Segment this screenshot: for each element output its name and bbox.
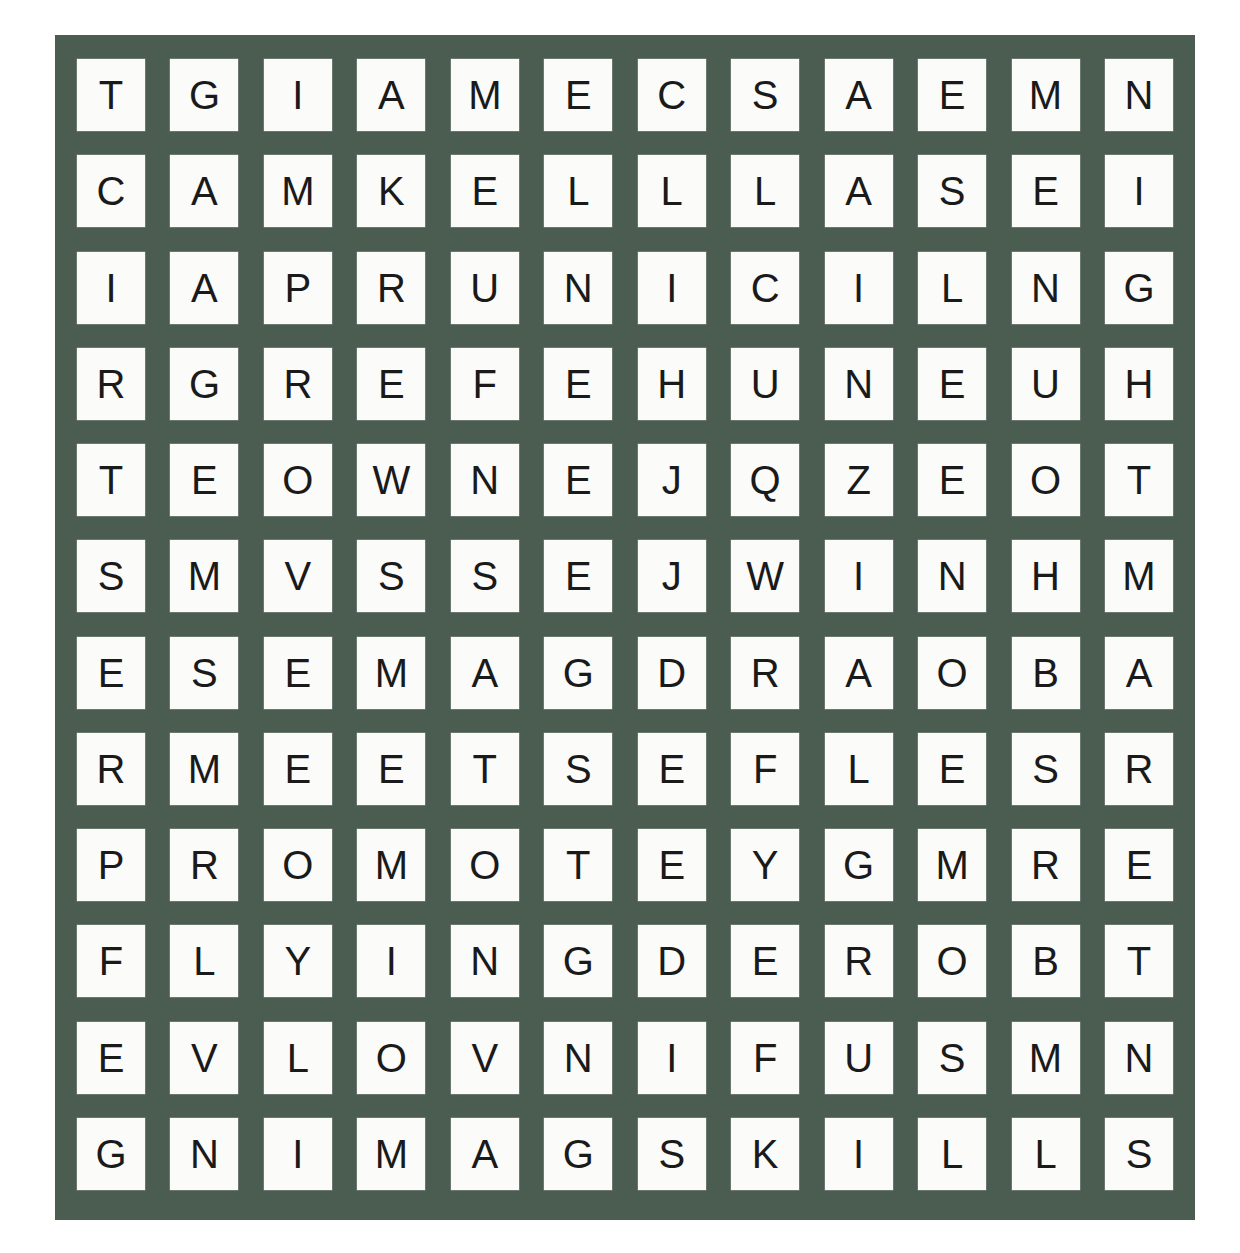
grid-cell-r6-c12[interactable]: M bbox=[1105, 540, 1173, 612]
grid-cell-r11-c6[interactable]: N bbox=[544, 1022, 612, 1094]
grid-cell-r3-c9[interactable]: I bbox=[825, 252, 893, 324]
grid-cell-r5-c6[interactable]: E bbox=[544, 444, 612, 516]
grid-cell-r2-c6[interactable]: L bbox=[544, 155, 612, 227]
grid-cell-r12-c10[interactable]: L bbox=[918, 1118, 986, 1190]
grid-cell-r9-c6[interactable]: T bbox=[544, 829, 612, 901]
grid-cell-r4-c3[interactable]: R bbox=[264, 348, 332, 420]
grid-cell-r6-c11[interactable]: H bbox=[1012, 540, 1080, 612]
grid-cell-r6-c5[interactable]: S bbox=[451, 540, 519, 612]
grid-cell-r3-c5[interactable]: U bbox=[451, 252, 519, 324]
grid-cell-r2-c10[interactable]: S bbox=[918, 155, 986, 227]
grid-cell-r3-c10[interactable]: L bbox=[918, 252, 986, 324]
grid-cell-r5-c8[interactable]: Q bbox=[731, 444, 799, 516]
grid-cell-r8-c1[interactable]: R bbox=[77, 733, 145, 805]
grid-cell-r6-c3[interactable]: V bbox=[264, 540, 332, 612]
grid-cell-r11-c9[interactable]: U bbox=[825, 1022, 893, 1094]
grid-cell-r10-c11[interactable]: B bbox=[1012, 925, 1080, 997]
grid-cell-r11-c10[interactable]: S bbox=[918, 1022, 986, 1094]
grid-cell-r4-c4[interactable]: E bbox=[357, 348, 425, 420]
grid-cell-r11-c3[interactable]: L bbox=[264, 1022, 332, 1094]
grid-cell-r3-c1[interactable]: I bbox=[77, 252, 145, 324]
grid-cell-r5-c7[interactable]: J bbox=[638, 444, 706, 516]
grid-cell-r2-c3[interactable]: M bbox=[264, 155, 332, 227]
grid-cell-r7-c6[interactable]: G bbox=[544, 637, 612, 709]
grid-cell-r9-c3[interactable]: O bbox=[264, 829, 332, 901]
grid-cell-r11-c1[interactable]: E bbox=[77, 1022, 145, 1094]
grid-cell-r7-c2[interactable]: S bbox=[170, 637, 238, 709]
grid-cell-r12-c7[interactable]: S bbox=[638, 1118, 706, 1190]
grid-cell-r4-c6[interactable]: E bbox=[544, 348, 612, 420]
grid-cell-r2-c2[interactable]: A bbox=[170, 155, 238, 227]
grid-cell-r12-c12[interactable]: S bbox=[1105, 1118, 1173, 1190]
grid-cell-r9-c8[interactable]: Y bbox=[731, 829, 799, 901]
grid-cell-r5-c10[interactable]: E bbox=[918, 444, 986, 516]
grid-cell-r4-c12[interactable]: H bbox=[1105, 348, 1173, 420]
grid-cell-r10-c2[interactable]: L bbox=[170, 925, 238, 997]
grid-cell-r3-c7[interactable]: I bbox=[638, 252, 706, 324]
grid-cell-r9-c7[interactable]: E bbox=[638, 829, 706, 901]
grid-cell-r1-c12[interactable]: N bbox=[1105, 59, 1173, 131]
grid-cell-r6-c9[interactable]: I bbox=[825, 540, 893, 612]
grid-cell-r1-c5[interactable]: M bbox=[451, 59, 519, 131]
grid-cell-r8-c9[interactable]: L bbox=[825, 733, 893, 805]
grid-cell-r2-c11[interactable]: E bbox=[1012, 155, 1080, 227]
grid-cell-r6-c10[interactable]: N bbox=[918, 540, 986, 612]
word-search-grid[interactable]: TGIAMECSAEMNCAMKELLLASEIIAPRUNICILNGRGRE… bbox=[55, 35, 1195, 1220]
grid-cell-r6-c7[interactable]: J bbox=[638, 540, 706, 612]
grid-cell-r9-c1[interactable]: P bbox=[77, 829, 145, 901]
grid-cell-r4-c8[interactable]: U bbox=[731, 348, 799, 420]
grid-cell-r6-c1[interactable]: S bbox=[77, 540, 145, 612]
grid-cell-r8-c2[interactable]: M bbox=[170, 733, 238, 805]
grid-cell-r4-c5[interactable]: F bbox=[451, 348, 519, 420]
grid-cell-r1-c6[interactable]: E bbox=[544, 59, 612, 131]
grid-cell-r12-c5[interactable]: A bbox=[451, 1118, 519, 1190]
grid-cell-r11-c5[interactable]: V bbox=[451, 1022, 519, 1094]
grid-cell-r1-c9[interactable]: A bbox=[825, 59, 893, 131]
grid-cell-r11-c4[interactable]: O bbox=[357, 1022, 425, 1094]
grid-cell-r9-c9[interactable]: G bbox=[825, 829, 893, 901]
grid-cell-r7-c5[interactable]: A bbox=[451, 637, 519, 709]
grid-cell-r8-c3[interactable]: E bbox=[264, 733, 332, 805]
grid-cell-r6-c2[interactable]: M bbox=[170, 540, 238, 612]
grid-cell-r1-c4[interactable]: A bbox=[357, 59, 425, 131]
grid-cell-r10-c4[interactable]: I bbox=[357, 925, 425, 997]
grid-cell-r12-c3[interactable]: I bbox=[264, 1118, 332, 1190]
grid-cell-r12-c1[interactable]: G bbox=[77, 1118, 145, 1190]
grid-cell-r10-c6[interactable]: G bbox=[544, 925, 612, 997]
grid-cell-r10-c10[interactable]: O bbox=[918, 925, 986, 997]
grid-cell-r4-c11[interactable]: U bbox=[1012, 348, 1080, 420]
grid-cell-r8-c11[interactable]: S bbox=[1012, 733, 1080, 805]
grid-cell-r10-c12[interactable]: T bbox=[1105, 925, 1173, 997]
grid-cell-r8-c5[interactable]: T bbox=[451, 733, 519, 805]
grid-cell-r2-c8[interactable]: L bbox=[731, 155, 799, 227]
grid-cell-r7-c3[interactable]: E bbox=[264, 637, 332, 709]
grid-cell-r5-c4[interactable]: W bbox=[357, 444, 425, 516]
grid-cell-r1-c3[interactable]: I bbox=[264, 59, 332, 131]
grid-cell-r8-c8[interactable]: F bbox=[731, 733, 799, 805]
grid-cell-r5-c3[interactable]: O bbox=[264, 444, 332, 516]
grid-cell-r5-c5[interactable]: N bbox=[451, 444, 519, 516]
grid-cell-r9-c12[interactable]: E bbox=[1105, 829, 1173, 901]
grid-cell-r2-c9[interactable]: A bbox=[825, 155, 893, 227]
grid-cell-r4-c10[interactable]: E bbox=[918, 348, 986, 420]
grid-cell-r6-c8[interactable]: W bbox=[731, 540, 799, 612]
grid-cell-r7-c10[interactable]: O bbox=[918, 637, 986, 709]
grid-cell-r3-c2[interactable]: A bbox=[170, 252, 238, 324]
grid-cell-r11-c2[interactable]: V bbox=[170, 1022, 238, 1094]
grid-cell-r10-c7[interactable]: D bbox=[638, 925, 706, 997]
grid-cell-r9-c2[interactable]: R bbox=[170, 829, 238, 901]
grid-cell-r8-c4[interactable]: E bbox=[357, 733, 425, 805]
grid-cell-r7-c11[interactable]: B bbox=[1012, 637, 1080, 709]
grid-cell-r9-c10[interactable]: M bbox=[918, 829, 986, 901]
grid-cell-r11-c11[interactable]: M bbox=[1012, 1022, 1080, 1094]
grid-cell-r1-c7[interactable]: C bbox=[638, 59, 706, 131]
grid-cell-r10-c1[interactable]: F bbox=[77, 925, 145, 997]
grid-cell-r3-c11[interactable]: N bbox=[1012, 252, 1080, 324]
grid-cell-r9-c4[interactable]: M bbox=[357, 829, 425, 901]
grid-cell-r12-c2[interactable]: N bbox=[170, 1118, 238, 1190]
grid-cell-r4-c7[interactable]: H bbox=[638, 348, 706, 420]
grid-cell-r11-c12[interactable]: N bbox=[1105, 1022, 1173, 1094]
grid-cell-r4-c1[interactable]: R bbox=[77, 348, 145, 420]
grid-cell-r7-c8[interactable]: R bbox=[731, 637, 799, 709]
grid-cell-r12-c9[interactable]: I bbox=[825, 1118, 893, 1190]
